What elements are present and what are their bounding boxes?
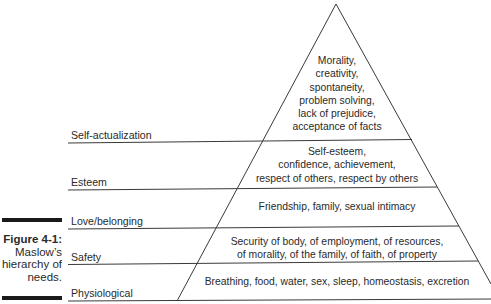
level-label-physiological: Physiological — [71, 287, 133, 300]
tier-description-self-actualization: Morality, creativity, spontaneity, probl… — [292, 54, 381, 134]
level-label-self-actualization: Self-actualization — [71, 129, 152, 142]
tier-description-safety: Security of body, of employment, of reso… — [231, 235, 444, 262]
tier-description-love-belonging: Friendship, family, sexual intimacy — [259, 200, 416, 213]
level-label-love-belonging: Love/belonging — [71, 215, 143, 228]
divider-esteem — [68, 187, 437, 190]
caption-bottom-rule — [2, 296, 62, 300]
tier-description-physiological: Breathing, food, water, sex, sleep, home… — [205, 275, 470, 288]
figure-caption: Figure 4-1: Maslow’s hierarchy of needs. — [2, 233, 62, 283]
tier-description-esteem: Self-esteem, confidence, achievement, re… — [256, 145, 418, 185]
figure-number: Figure 4-1: — [2, 233, 62, 246]
level-label-esteem: Esteem — [71, 176, 107, 189]
caption-top-rule — [2, 218, 62, 222]
level-label-safety: Safety — [71, 251, 101, 264]
